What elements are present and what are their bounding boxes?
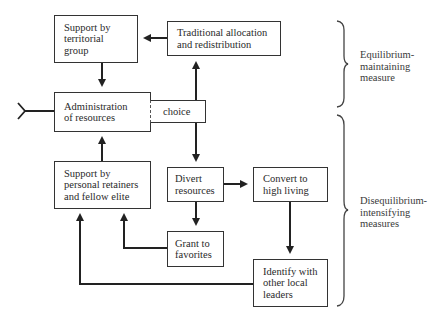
node-administration-of-resources: Administration of resources (54, 92, 151, 132)
node-text: territorial (64, 33, 137, 45)
group-text: Equilibrium- (360, 49, 414, 61)
node-text: personal retainers (64, 179, 150, 191)
node-text: other local (263, 277, 327, 289)
node-text: Identify with (263, 266, 327, 278)
node-text: Administration (64, 101, 150, 113)
node-text: resources (175, 185, 223, 197)
node-text: and redistribution (177, 39, 280, 51)
node-identify-local-leaders: Identify with other local leaders (253, 259, 328, 307)
group-label-equilibrium: Equilibrium- maintaining measure (360, 49, 414, 84)
node-divert-resources: Divert resources (167, 167, 224, 202)
node-text: group (64, 45, 137, 57)
node-text: Divert (175, 173, 223, 185)
node-text: Support by (64, 22, 137, 34)
brace-equilibrium-icon (337, 21, 348, 107)
group-text: measure (360, 72, 414, 84)
input-fork-icon (18, 103, 54, 119)
node-text: Convert to (263, 173, 327, 185)
group-text: maintaining (360, 61, 414, 73)
group-text: intensifying (360, 207, 427, 219)
node-text: Grant to (175, 238, 223, 250)
node-grant-to-favorites: Grant to favorites (167, 231, 224, 267)
group-text: Disequilibrium- (360, 195, 427, 207)
node-convert-high-living: Convert to high living (253, 167, 328, 202)
node-text: favorites (175, 249, 223, 261)
node-text: Support by (64, 168, 150, 180)
group-text: measures (360, 218, 427, 230)
node-text: choice (163, 106, 205, 118)
group-label-disequilibrium: Disequilibrium- intensifying measures (360, 195, 427, 230)
brace-disequilibrium-icon (337, 115, 348, 306)
node-support-personal-retainers: Support by personal retainers and fellow… (54, 161, 151, 209)
edge-grant-retainers (124, 215, 167, 248)
node-text: and fellow elite (64, 191, 150, 203)
node-text: high living (263, 185, 327, 197)
node-choice: choice (150, 100, 206, 123)
node-text: leaders (263, 289, 327, 301)
node-text: Traditional allocation (177, 27, 280, 39)
node-text: of resources (64, 112, 150, 124)
node-traditional-allocation: Traditional allocation and redistributio… (167, 21, 281, 56)
node-support-territorial-group: Support by territorial group (54, 15, 138, 63)
